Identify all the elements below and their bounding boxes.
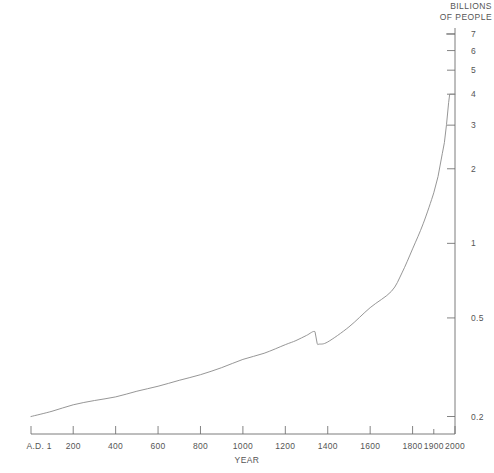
y-axis-title-line1: BILLIONS [440, 1, 492, 12]
y-tick-label-2: 2 [471, 164, 476, 174]
tick-marks-group [31, 34, 455, 434]
x-tick-label-1900: 1900 [424, 441, 444, 451]
x-tick-label-1200: 1200 [275, 441, 295, 451]
y-tick-label-5: 5 [471, 65, 476, 75]
axes-group [31, 28, 455, 434]
x-tick-label-800: 800 [193, 441, 208, 451]
y-axis-title-line2: OF PEOPLE [440, 12, 492, 23]
x-tick-label-1800: 1800 [403, 441, 423, 451]
y-tick-label-0_5: 0.5 [471, 313, 484, 323]
y-tick-label-6: 6 [471, 46, 476, 56]
x-tick-label-1600: 1600 [360, 441, 380, 451]
y-tick-label-0_2: 0.2 [471, 412, 484, 422]
chart-canvas [0, 0, 494, 473]
y-tick-label-4: 4 [471, 89, 476, 99]
population-curve [31, 94, 455, 416]
population-chart: BILLIONSOF PEOPLE YEAR A.D. 120040060080… [0, 0, 494, 473]
x-tick-label-AD1: A.D. 1 [26, 441, 51, 451]
x-tick-label-1400: 1400 [318, 441, 338, 451]
x-tick-label-1000: 1000 [233, 441, 253, 451]
y-tick-label-1: 1 [471, 238, 476, 248]
y-axis-title: BILLIONSOF PEOPLE [440, 1, 492, 22]
x-tick-label-400: 400 [108, 441, 123, 451]
x-tick-label-200: 200 [66, 441, 81, 451]
x-axis-title: YEAR [0, 455, 494, 466]
x-tick-label-2000: 2000 [445, 441, 465, 451]
y-tick-label-3: 3 [471, 120, 476, 130]
x-tick-label-600: 600 [151, 441, 166, 451]
y-tick-label-7: 7 [471, 29, 476, 39]
